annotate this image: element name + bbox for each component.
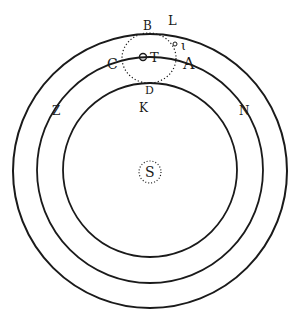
label-B: B <box>143 19 152 33</box>
label-S: S <box>145 164 155 180</box>
label-l: ɩ <box>181 38 186 53</box>
label-L: L <box>168 13 177 28</box>
label-A: A <box>182 54 195 73</box>
orbit-diagram: B L ɩ C A T D K Z N S <box>0 0 299 322</box>
label-K: K <box>139 101 149 115</box>
label-T: T <box>150 50 159 65</box>
label-D: D <box>145 84 154 97</box>
label-C: C <box>107 56 118 72</box>
c-marker <box>173 42 177 46</box>
label-N: N <box>239 104 250 118</box>
label-Z: Z <box>52 104 60 118</box>
